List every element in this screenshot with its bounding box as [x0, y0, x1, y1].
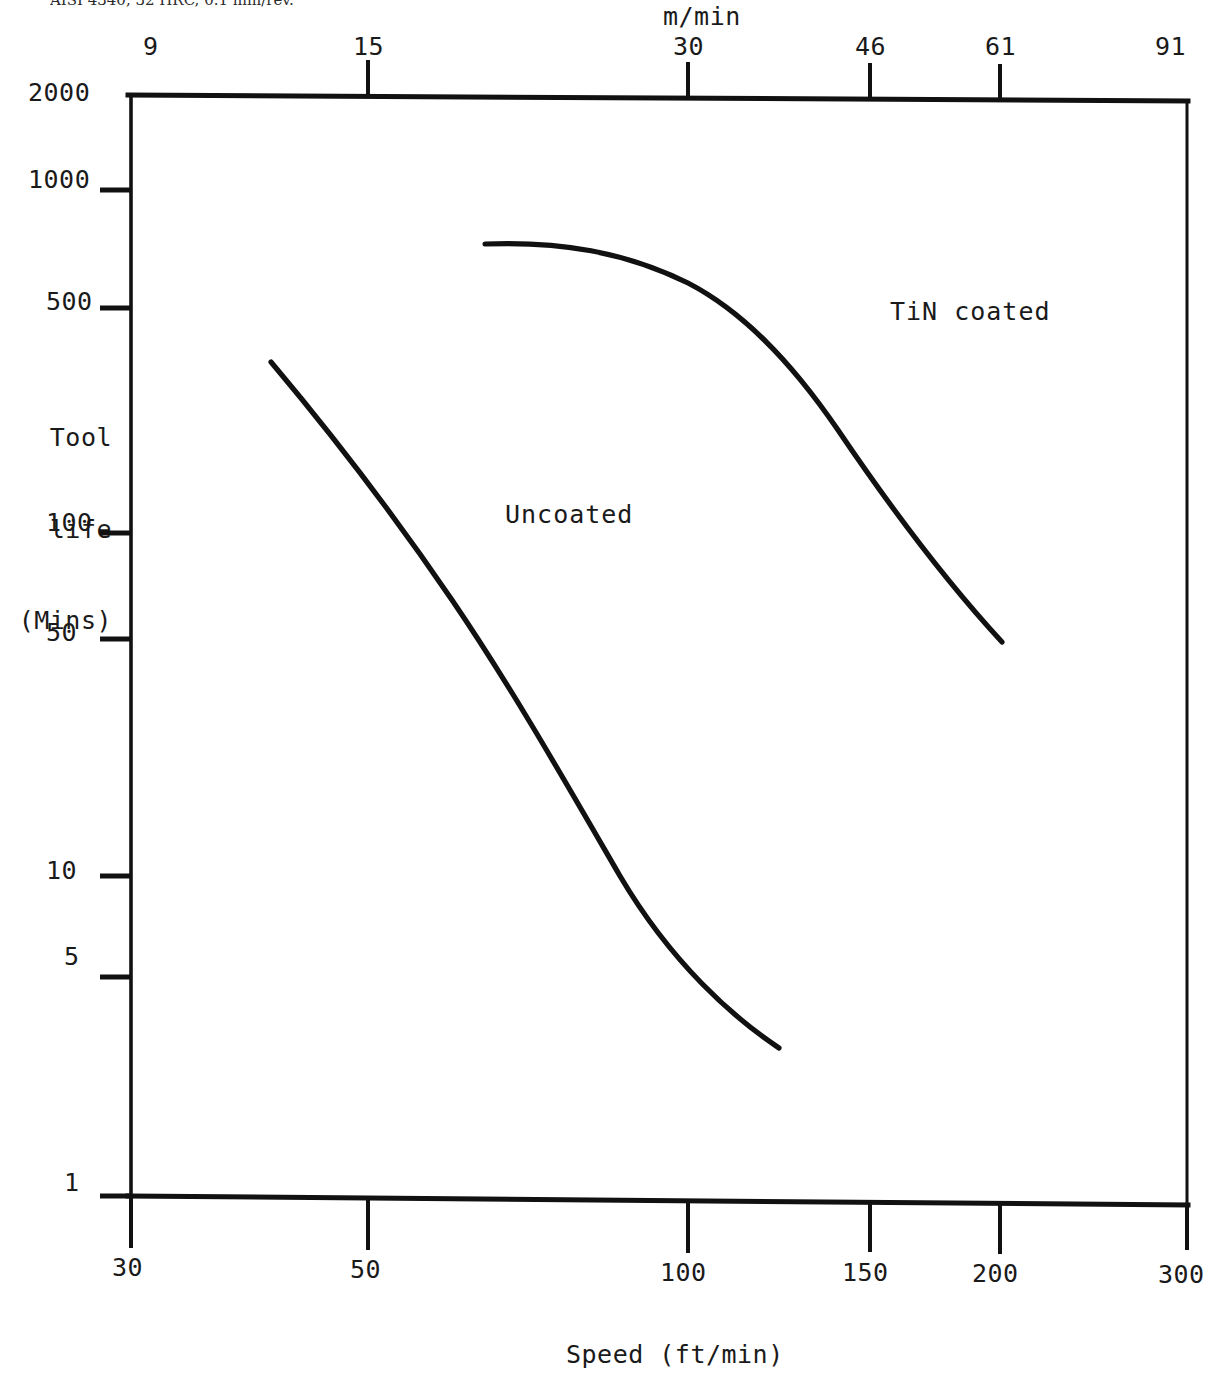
bottom-tick-label-300: 300	[1158, 1260, 1205, 1291]
frame-bottom-rule	[128, 1196, 1188, 1205]
x-axis-title: Speed (ft/min)	[566, 1340, 784, 1371]
bottom-tick-label-30: 30	[112, 1253, 143, 1284]
top-axis-ticks	[368, 60, 1000, 100]
series-annotation-tin-coated: TiN coated	[890, 297, 1051, 328]
series-curve-uncoated	[271, 362, 779, 1048]
plot-area-svg	[0, 0, 1213, 1386]
frame-top-rule	[128, 95, 1188, 101]
series-annotation-uncoated: Uncoated	[505, 500, 633, 531]
plot-frame	[128, 95, 1188, 1205]
bottom-tick-label-50: 50	[350, 1255, 381, 1286]
bottom-tick-label-150: 150	[842, 1258, 889, 1289]
bottom-tick-label-100: 100	[660, 1258, 707, 1289]
tool-life-chart-figure: AISI 4340, 32 HRC, 0.1 mm/rev. m/min 9 1…	[0, 0, 1213, 1386]
y-axis-ticks	[100, 190, 131, 1196]
bottom-tick-label-200: 200	[972, 1259, 1019, 1290]
